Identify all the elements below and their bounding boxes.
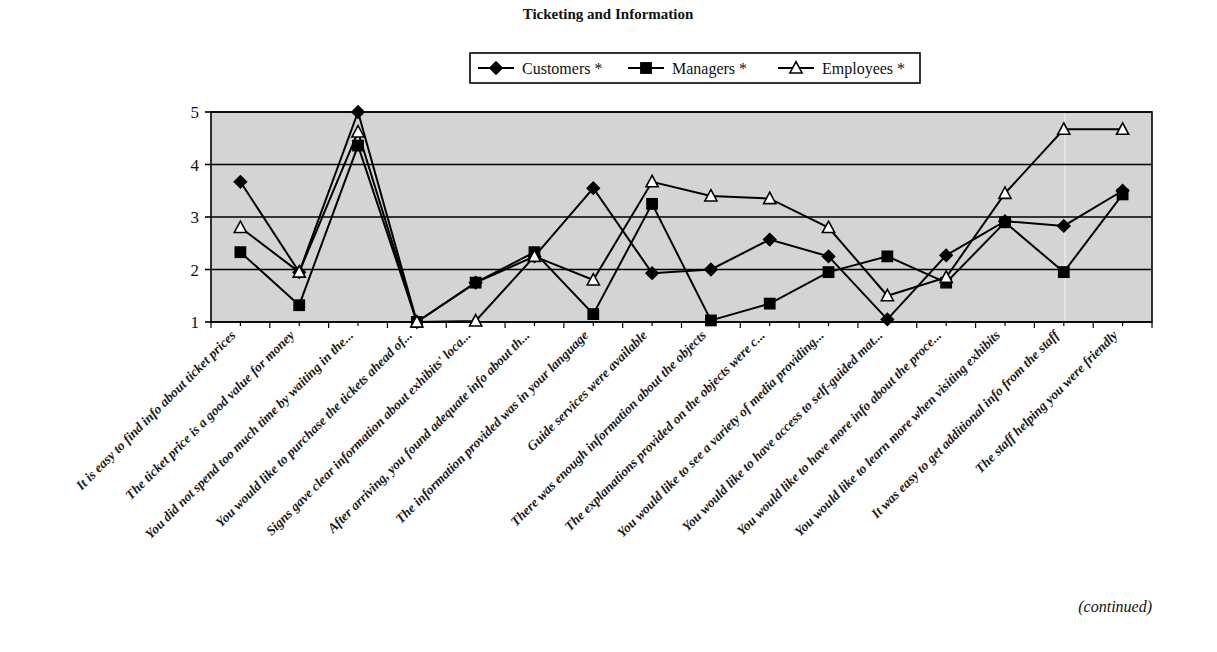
legend-label: Managers * [672,60,747,78]
square-filled-marker [823,267,833,277]
chart-legend: Customers *Managers *Employees * [470,53,920,83]
square-filled-marker [882,251,892,261]
square-filled-marker [1000,217,1010,227]
square-filled-marker [765,298,775,308]
chart-title: Ticketing and Information [523,6,694,22]
square-filled-marker [647,199,657,209]
legend-entry-1: Customers * [478,60,602,77]
legend-label: Employees * [822,60,905,78]
legend-label: Customers * [522,60,602,77]
square-filled-marker [294,300,304,310]
square-filled-marker [1059,267,1069,277]
plot-area: 12345 [191,103,1153,332]
y-axis-tick-label: 2 [191,261,200,280]
y-axis-tick-label: 1 [191,313,200,332]
square-filled-marker [641,63,651,73]
line-chart-svg: Ticketing and Information Customers *Man… [0,0,1217,652]
continued-note: (continued) [1078,598,1152,616]
chart-figure: Ticketing and Information Customers *Man… [0,0,1217,652]
y-axis-tick-label: 3 [191,208,200,227]
square-filled-marker [706,315,716,325]
y-axis-tick-label: 5 [191,103,200,122]
square-filled-marker [588,309,598,319]
y-axis-tick-label: 4 [191,156,200,175]
square-filled-marker [470,277,480,287]
square-filled-marker [235,247,245,257]
square-filled-marker [1117,189,1127,199]
